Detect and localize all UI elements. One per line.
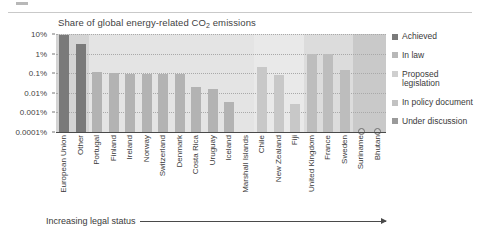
bar-slot[interactable]: [320, 34, 337, 132]
chart-figure: Share of global energy-related CO2 emiss…: [0, 0, 480, 242]
x-axis-category-label: Marshall Islands: [242, 135, 250, 193]
legend-label: Achieved: [402, 32, 437, 42]
annotation-arrow-line: [140, 221, 386, 222]
x-axis-label-slot: France: [320, 133, 337, 209]
bar-slot[interactable]: [205, 34, 222, 132]
x-axis-category-label: Chile: [258, 135, 266, 153]
legend-item[interactable]: In policy document: [392, 98, 478, 108]
y-axis-tick-mark: [52, 132, 55, 133]
bar-slot[interactable]: [89, 34, 106, 132]
bar[interactable]: [125, 74, 135, 132]
bar[interactable]: [290, 104, 300, 132]
bar-slot[interactable]: [122, 34, 139, 132]
y-axis-tick-label: 1%: [35, 49, 47, 58]
bar-slot[interactable]: [56, 34, 73, 132]
x-axis-label-slot: Switzerland: [155, 133, 172, 209]
legend-item[interactable]: Achieved: [392, 32, 478, 42]
bar[interactable]: [340, 70, 350, 132]
y-axis-tick-mark: [52, 73, 55, 74]
x-axis-category-label: Ireland: [126, 135, 134, 159]
bar[interactable]: [208, 89, 218, 132]
bar-slot[interactable]: [254, 34, 271, 132]
x-axis-label-slot: Bhutan: [370, 133, 387, 209]
chart-legend: AchievedIn lawProposed legislationIn pol…: [392, 32, 478, 136]
x-axis-category-labels: European UnionOtherPortugalFinlandIrelan…: [56, 133, 386, 209]
y-axis-tick-mark: [52, 112, 55, 113]
x-axis-label-slot: Finland: [106, 133, 123, 209]
bar-series: [56, 34, 386, 132]
legend-item[interactable]: Proposed legislation: [392, 70, 478, 90]
legend-label: Proposed legislation: [402, 70, 478, 90]
y-axis-tick-label: 0.0001%: [15, 128, 47, 137]
x-axis-category-label: Finland: [110, 135, 118, 161]
bar[interactable]: [307, 54, 317, 132]
legend-item[interactable]: Under discussion: [392, 117, 478, 127]
x-axis-label-slot: Chile: [254, 133, 271, 209]
y-axis-tick-labels: 10%1%0.1%0.01%0.001%0.0001%: [0, 34, 52, 132]
legend-item[interactable]: In law: [392, 51, 478, 61]
x-axis-label-slot: New Zealand: [271, 133, 288, 209]
x-axis-category-label: Norway: [143, 135, 151, 162]
header-rule: [8, 12, 472, 13]
legal-status-annotation: Increasing legal status: [46, 216, 386, 226]
x-axis-label-slot: Sweden: [337, 133, 354, 209]
x-axis-category-label: Denmark: [176, 135, 184, 167]
x-axis-category-label: Switzerland: [159, 135, 167, 176]
x-axis-label-slot: Norway: [139, 133, 156, 209]
bar-slot[interactable]: [172, 34, 189, 132]
x-axis-label-slot: Fiji: [287, 133, 304, 209]
y-axis-tick-mark: [52, 92, 55, 93]
bar[interactable]: [224, 102, 234, 132]
bar[interactable]: [323, 54, 333, 132]
bar-slot[interactable]: [353, 34, 370, 132]
bar-slot[interactable]: [370, 34, 387, 132]
y-axis-tick-mark: [52, 53, 55, 54]
bar-slot[interactable]: [337, 34, 354, 132]
bar-slot[interactable]: [155, 34, 172, 132]
legend-swatch: [392, 71, 398, 77]
bar-slot[interactable]: [139, 34, 156, 132]
bar-slot[interactable]: [188, 34, 205, 132]
x-axis-category-label: France: [324, 135, 332, 160]
bar[interactable]: [274, 75, 284, 132]
legend-swatch: [392, 52, 398, 58]
x-axis-label-slot: Denmark: [172, 133, 189, 209]
y-axis-tick-label: 10%: [31, 30, 47, 39]
x-axis-label-slot: Uruguay: [205, 133, 222, 209]
bar[interactable]: [59, 35, 69, 132]
x-axis-label-slot: Other: [73, 133, 90, 209]
legend-label: In law: [402, 51, 424, 61]
chart-title-pre: Share of global energy-related CO: [58, 17, 206, 28]
bar-slot[interactable]: [106, 34, 123, 132]
bar-slot[interactable]: [221, 34, 238, 132]
bar[interactable]: [257, 67, 267, 133]
x-axis-category-label: Portugal: [93, 135, 101, 165]
x-axis-category-label: Iceland: [225, 135, 233, 161]
bar[interactable]: [175, 74, 185, 132]
bar[interactable]: [158, 74, 168, 132]
legend-swatch: [392, 118, 398, 124]
legend-swatch: [392, 100, 398, 106]
y-axis-tick-mark: [52, 34, 55, 35]
x-axis-label-slot: European Union: [56, 133, 73, 209]
bar[interactable]: [76, 44, 86, 132]
x-axis-label-slot: United Kingdom: [304, 133, 321, 209]
legend-label: Under discussion: [402, 117, 467, 127]
bar[interactable]: [191, 87, 201, 132]
header-nub: [16, 2, 28, 5]
bar-slot[interactable]: [238, 34, 255, 132]
chart-title: Share of global energy-related CO2 emiss…: [58, 17, 256, 28]
bar-slot[interactable]: [304, 34, 321, 132]
x-axis-label-slot: Portugal: [89, 133, 106, 209]
bar-slot[interactable]: [271, 34, 288, 132]
bar-slot[interactable]: [287, 34, 304, 132]
arrow-right-icon: [381, 218, 387, 224]
bar-slot[interactable]: [73, 34, 90, 132]
bar[interactable]: [142, 74, 152, 132]
y-axis-tick-label: 0.01%: [24, 88, 47, 97]
x-axis-label-slot: Ireland: [122, 133, 139, 209]
bar[interactable]: [92, 72, 102, 132]
bar[interactable]: [109, 73, 119, 132]
x-axis-label-slot: Suriname: [353, 133, 370, 209]
y-axis-tick-label: 0.1%: [29, 69, 47, 78]
